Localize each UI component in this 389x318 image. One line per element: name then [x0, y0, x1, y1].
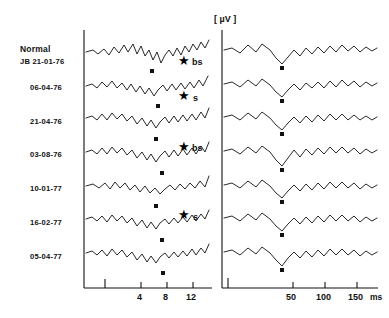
trace-right-row-7: [224, 247, 377, 266]
star-icon-row-0: ★: [178, 54, 190, 67]
figure-root: [ µV ] Normal JB 21-01-76 06-04-76 21-04…: [0, 0, 389, 318]
row-label-0-line2: JB 21-01-76: [20, 57, 64, 66]
xtick-label-right-150: 150: [348, 292, 363, 302]
row-label-1: 06-04-76: [30, 83, 62, 92]
annotation-text-row-5: s: [193, 212, 198, 222]
peak-marker: [150, 69, 154, 73]
peak-marker: [280, 168, 284, 172]
annotation-text-row-3: bs: [192, 143, 203, 153]
trace-left-row-4: [86, 142, 209, 162]
star-icon-row-5: ★: [178, 208, 190, 221]
xtick-label-left-12: 12: [186, 292, 196, 302]
peak-marker: [280, 268, 284, 272]
trace-left-row-7: [86, 244, 209, 263]
trace-left-row-6: [86, 210, 209, 229]
trace-right-row-1: [224, 44, 377, 64]
peak-marker: [280, 200, 284, 204]
xtick-label-left-4: 4: [137, 292, 142, 302]
trace-left-row-3: [86, 108, 209, 128]
peak-marker: [280, 66, 284, 70]
trace-left-row-1: [86, 40, 209, 63]
peak-marker: [280, 99, 284, 103]
peak-marker: [280, 233, 284, 237]
annotation-text-row-0: bs: [192, 57, 203, 67]
trace-right-row-4: [224, 146, 377, 166]
row-label-2: 21-04-76: [30, 117, 62, 126]
xtick-label-right-100: 100: [316, 292, 331, 302]
trace-right-row-6: [224, 213, 377, 231]
peak-marker: [280, 132, 284, 136]
peak-marker: [160, 171, 164, 175]
star-icon-row-3: ★: [178, 140, 190, 153]
peak-marker: [160, 238, 164, 242]
amplitude-unit-label: [ µV ]: [214, 14, 236, 24]
peak-marker: [154, 204, 158, 208]
waveform-plot: [0, 0, 389, 318]
row-label-3: 03-08-76: [30, 150, 62, 159]
star-icon-row-1: ★: [178, 89, 190, 102]
annotation-text-row-1: s: [193, 93, 198, 103]
row-label-5: 16-02-77: [30, 218, 62, 227]
trace-right-row-2: [224, 79, 377, 97]
x-axis-unit-label: ms: [370, 292, 382, 302]
row-label-4: 10-01-77: [30, 184, 62, 193]
trace-right-row-5: [224, 180, 377, 198]
peak-marker: [161, 271, 165, 275]
row-label-6: 05-04-77: [30, 252, 62, 261]
xtick-label-left-8: 8: [163, 292, 168, 302]
peak-marker: [156, 104, 160, 108]
trace-left-row-5: [86, 176, 209, 194]
trace-right-row-3: [224, 112, 377, 130]
row-label-0-line1: Normal: [20, 44, 51, 54]
peak-marker: [154, 137, 158, 141]
xtick-label-right-50: 50: [286, 292, 296, 302]
